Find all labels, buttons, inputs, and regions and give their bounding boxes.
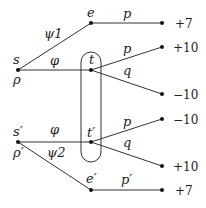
label-rho-prime: ρ′ xyxy=(12,145,24,160)
terminal-t-p xyxy=(160,45,164,49)
label-s-prime: s′ xyxy=(13,124,23,139)
label-e: e xyxy=(87,5,95,20)
payoff-e: +7 xyxy=(175,17,193,31)
edge-label-q-t: q xyxy=(123,63,131,78)
edge-label-phi-bottom: φ xyxy=(50,122,60,137)
payoff-ep: +7 xyxy=(175,184,193,198)
payoff-tp-q: +10 xyxy=(173,160,198,174)
node-s-prime xyxy=(16,140,20,144)
payoff-t-p: +10 xyxy=(173,41,198,55)
label-s: s xyxy=(13,52,20,67)
node-t xyxy=(89,68,93,72)
label-rho: ρ xyxy=(12,72,21,87)
terminal-tp-p xyxy=(160,117,164,121)
node-e-prime xyxy=(89,188,93,192)
label-e-prime: e′ xyxy=(86,171,97,186)
edge-label-p-t: p xyxy=(123,41,132,56)
game-tree-diagram: s ρ e t s′ ρ′ t′ e′ ψ1 φ p p q φ ψ2 p q … xyxy=(0,0,206,208)
payoff-t-q: −10 xyxy=(173,88,198,102)
edge-label-psi2: ψ2 xyxy=(47,145,65,160)
terminal-tp-q xyxy=(160,164,164,168)
edge-label-psi1: ψ1 xyxy=(44,26,62,41)
edge-label-q-tp: q xyxy=(123,135,131,150)
edge-label-phi-top: φ xyxy=(50,53,60,68)
terminal-ep xyxy=(160,188,164,192)
node-e xyxy=(89,21,93,25)
terminal-t-q xyxy=(160,92,164,96)
payoff-tp-p: −10 xyxy=(173,113,198,127)
edge-label-p-prime: p′ xyxy=(121,172,132,187)
edge-label-p-e: p xyxy=(123,6,132,21)
node-t-prime xyxy=(89,140,93,144)
terminal-e xyxy=(160,21,164,25)
label-t-prime: t′ xyxy=(87,125,95,140)
label-t: t xyxy=(89,52,95,67)
edge-label-p-tp: p xyxy=(123,114,132,129)
